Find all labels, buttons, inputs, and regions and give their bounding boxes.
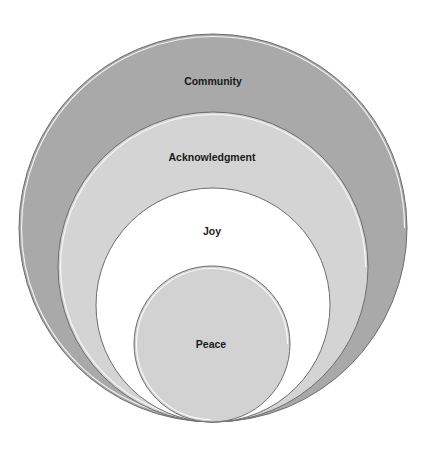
label-acknowledgment: Acknowledgment — [169, 151, 256, 163]
nested-circles-diagram: Community Acknowledgment Joy Peace — [0, 0, 430, 454]
label-peace: Peace — [196, 338, 227, 350]
label-joy: Joy — [203, 225, 221, 237]
label-community: Community — [184, 75, 242, 87]
